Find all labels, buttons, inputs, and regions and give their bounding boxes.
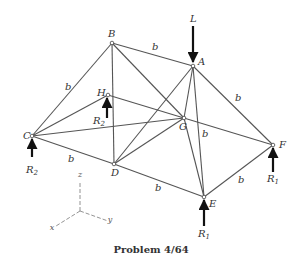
joint-D: [112, 162, 116, 166]
length-label-b: b: [65, 81, 71, 92]
load-label-R2_C: R2: [25, 164, 39, 177]
joint-label-G: G: [179, 121, 187, 132]
axis-label-x: x: [50, 223, 55, 232]
length-label-b: b: [238, 174, 244, 185]
joint-label-A: A: [197, 56, 205, 67]
axis-label-y: y: [107, 215, 113, 224]
length-label-b: b: [152, 41, 158, 52]
joint-G: [182, 116, 186, 120]
length-label-b: b: [155, 182, 161, 193]
length-label-b: b: [235, 92, 241, 103]
joint-label-H: H: [96, 87, 106, 98]
joint-label-C: C: [23, 130, 31, 141]
axis-y: [80, 211, 108, 221]
load-label-R2_H: R2: [92, 115, 106, 128]
figure-caption: Problem 4/64: [113, 244, 188, 255]
load-label-R1_E: R1: [197, 228, 210, 241]
truss-members: [32, 43, 273, 197]
joint-F: [271, 143, 275, 147]
load-label-L: L: [189, 13, 197, 24]
joint-C: [30, 134, 34, 138]
member-BD: [112, 43, 114, 164]
joint-label-D: D: [110, 167, 119, 178]
load-label-R1_F: R1: [266, 173, 279, 186]
member-EF: [204, 145, 273, 197]
member-AG: [184, 66, 193, 118]
length-label-b: b: [202, 128, 208, 139]
joint-label-B: B: [107, 28, 115, 39]
joint-label-F: F: [278, 139, 287, 150]
joint-B: [110, 41, 114, 45]
coordinate-axes: zyx: [50, 170, 113, 232]
member-length-labels: bbbbbbb: [65, 41, 244, 193]
axis-x: [56, 211, 80, 226]
joint-E: [202, 195, 206, 199]
joint-H: [106, 93, 110, 97]
joint-label-E: E: [208, 198, 217, 209]
length-label-b: b: [68, 153, 74, 164]
axis-label-z: z: [77, 170, 83, 179]
joint-A: [191, 64, 195, 68]
space-truss-diagram: zyx LR2R2R1R1 ABCDEFGH bbbbbbb Problem 4…: [0, 0, 303, 260]
